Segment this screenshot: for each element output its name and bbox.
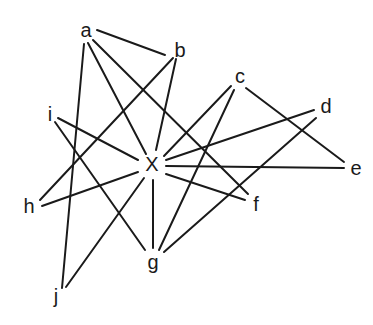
edge-e-X bbox=[166, 166, 344, 168]
node-label-i: i bbox=[48, 104, 52, 124]
edge-layer bbox=[0, 0, 373, 325]
node-label-X: X bbox=[145, 154, 158, 174]
diagram-canvas: abcdefghijX bbox=[0, 0, 373, 325]
edge-i-X bbox=[58, 118, 138, 160]
node-label-g: g bbox=[147, 252, 158, 272]
node-label-e: e bbox=[350, 158, 361, 178]
edge-d-g bbox=[164, 118, 316, 252]
node-label-c: c bbox=[235, 66, 245, 86]
node-label-b: b bbox=[174, 40, 185, 60]
node-label-a: a bbox=[80, 20, 91, 40]
edge-h-X bbox=[42, 172, 138, 206]
node-label-d: d bbox=[320, 96, 331, 116]
edge-a-f bbox=[93, 40, 248, 194]
node-label-f: f bbox=[253, 194, 259, 214]
node-label-h: h bbox=[23, 196, 34, 216]
edge-a-b bbox=[97, 30, 165, 55]
node-label-j: j bbox=[54, 286, 58, 306]
